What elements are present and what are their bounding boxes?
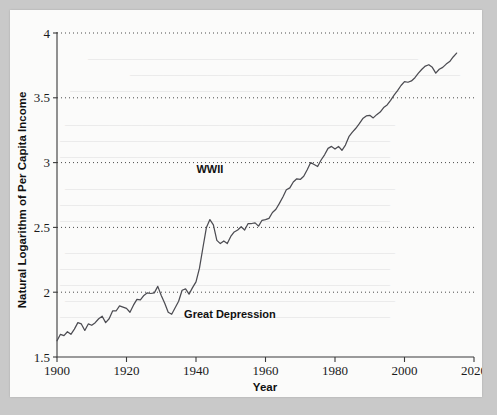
x-axis-title: Year: [253, 381, 278, 393]
x-tick-label: 1940: [183, 363, 209, 378]
x-tick-label: 1920: [114, 363, 140, 378]
bleedthrough-text: ——————————————————————————————: [69, 84, 401, 96]
y-tick-labels: 1.522.533.54: [34, 26, 51, 365]
x-tick-labels: 1900192019401960198020002020: [44, 363, 482, 378]
y-axis-title: Natural Logarithm of Per Capita Income: [16, 92, 28, 309]
bleedthrough-text: ——————————————————————————————: [64, 118, 396, 130]
bleedthrough-text: ——————————————————————————————: [59, 262, 391, 274]
bleedthrough-text: ——————————————————————————————: [64, 182, 396, 194]
bleedthrough-text: ——————————————————————————————: [59, 214, 391, 226]
bleedthrough-text: ——————————————————————————————: [129, 68, 461, 80]
y-tick-label: 3.5: [34, 90, 50, 105]
x-tick-label: 2000: [392, 363, 418, 378]
y-tick-label: 2.5: [34, 220, 50, 235]
x-tick-label: 2020: [461, 363, 482, 378]
bleedthrough-text: ——————————————————————————————: [59, 134, 391, 146]
per-capita-income-line-chart: ————————————————————————————————————————…: [10, 10, 482, 397]
y-tick-label: 2: [44, 285, 51, 300]
page-sheet: ————————————————————————————————————————…: [10, 10, 482, 397]
bleedthrough-text: ——————————————————————————————: [59, 198, 391, 210]
y-tick-label: 4: [44, 26, 51, 41]
bleedthrough-text-layer: ————————————————————————————————————————…: [59, 52, 461, 322]
annotation-label: WWII: [196, 163, 223, 175]
x-tick-label: 1980: [322, 363, 348, 378]
bleedthrough-text: ——————————————————————————————: [59, 278, 391, 290]
x-tick-label: 1900: [44, 363, 70, 378]
bleedthrough-text: ——————————————————————————————: [64, 294, 396, 306]
annotation-label: Great Depression: [184, 308, 276, 320]
x-tick-label: 1960: [253, 363, 279, 378]
bleedthrough-text: ——————————————————————————————: [64, 246, 396, 258]
bleedthrough-text: ——————————————————————————————: [59, 150, 391, 162]
chart-figure: ————————————————————————————————————————…: [10, 10, 482, 397]
y-tick-label: 3: [44, 155, 51, 170]
bleedthrough-text: ——————————————————————————————: [87, 52, 419, 64]
